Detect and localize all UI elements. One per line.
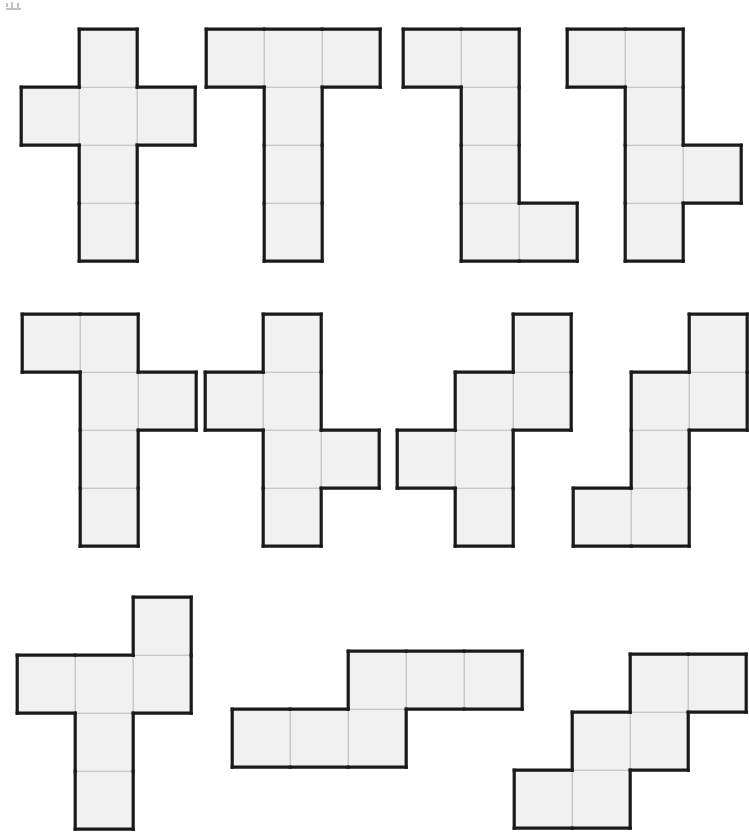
- net-cell: [206, 29, 264, 87]
- cube-net-net-8: [570, 311, 749, 549]
- artifact-bar: [11, 2, 13, 10]
- net-cell: [137, 87, 195, 145]
- net-cell: [403, 29, 461, 87]
- net-cell: [688, 654, 746, 712]
- net-cell: [79, 145, 137, 203]
- net-cell: [79, 29, 137, 87]
- net-cell: [397, 430, 455, 488]
- net-cell: [75, 713, 133, 771]
- artifact-bar: [6, 3, 8, 7]
- net-cell: [263, 488, 321, 546]
- net-cell: [513, 372, 571, 430]
- net-cell: [631, 430, 689, 488]
- net-cell: [455, 488, 513, 546]
- worksheet-sheet: [0, 0, 749, 837]
- net-cell: [455, 430, 513, 488]
- net-cell: [348, 709, 406, 767]
- net-cell: [461, 87, 519, 145]
- artifact-bar: [17, 3, 19, 9]
- net-cell: [689, 314, 747, 372]
- net-cell: [689, 372, 747, 430]
- net-cell: [290, 709, 348, 767]
- net-cell: [322, 29, 380, 87]
- cube-net-net-9: [14, 594, 194, 832]
- cube-net-net-5: [19, 311, 199, 549]
- net-cell: [80, 488, 138, 546]
- net-cell: [263, 372, 321, 430]
- net-cell: [631, 488, 689, 546]
- cube-net-net-1: [18, 26, 198, 264]
- net-cell: [264, 145, 322, 203]
- net-cell: [630, 712, 688, 770]
- cube-net-net-3: [400, 26, 580, 264]
- cube-net-net-11: [511, 651, 749, 831]
- net-cell: [625, 145, 683, 203]
- net-cell: [513, 314, 571, 372]
- net-cell: [461, 145, 519, 203]
- net-cell: [75, 655, 133, 713]
- net-cell: [461, 203, 519, 261]
- net-cell: [21, 87, 79, 145]
- net-cell: [264, 29, 322, 87]
- net-cell: [263, 314, 321, 372]
- net-cell: [232, 709, 290, 767]
- cube-net-net-2: [203, 26, 383, 264]
- net-cell: [321, 430, 379, 488]
- net-cell: [80, 372, 138, 430]
- net-cell: [625, 87, 683, 145]
- scan-artifact-mark: [6, 2, 22, 11]
- net-cell: [205, 372, 263, 430]
- net-cell: [625, 29, 683, 87]
- cube-net-net-10: [229, 648, 525, 770]
- net-cell: [264, 87, 322, 145]
- net-cell: [79, 87, 137, 145]
- net-cell: [567, 29, 625, 87]
- net-cell: [514, 770, 572, 828]
- cube-net-net-7: [394, 311, 574, 549]
- net-cell: [631, 372, 689, 430]
- net-cell: [138, 372, 196, 430]
- net-cell: [75, 771, 133, 829]
- net-cell: [79, 203, 137, 261]
- net-cell: [406, 651, 464, 709]
- net-cell: [133, 597, 191, 655]
- net-cell: [573, 488, 631, 546]
- net-cell: [572, 712, 630, 770]
- net-cell: [17, 655, 75, 713]
- cube-net-net-4: [564, 26, 744, 264]
- net-cell: [348, 651, 406, 709]
- net-cell: [630, 654, 688, 712]
- net-cell: [80, 314, 138, 372]
- net-cell: [264, 203, 322, 261]
- net-cell: [461, 29, 519, 87]
- net-cell: [263, 430, 321, 488]
- net-cell: [80, 430, 138, 488]
- net-cell: [22, 314, 80, 372]
- net-cell: [133, 655, 191, 713]
- net-cell: [625, 203, 683, 261]
- net-cell: [683, 145, 741, 203]
- net-cell: [572, 770, 630, 828]
- net-cell: [455, 372, 513, 430]
- cube-net-net-6: [202, 311, 382, 549]
